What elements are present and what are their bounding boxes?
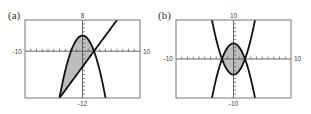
- x-min-label-a: -10: [13, 48, 23, 55]
- y-max-label-b: 10: [230, 12, 238, 19]
- panel-label-b: (b): [158, 9, 171, 22]
- x-max-label-a: 10: [143, 48, 151, 55]
- panel-label-a: (a): [8, 9, 21, 22]
- y-max-label-a: 8: [81, 12, 85, 19]
- graph-panel-b: (b) 10 -10 -10 10: [158, 0, 302, 114]
- shaded-region: [60, 36, 95, 98]
- y-min-label-a: -12: [78, 100, 88, 107]
- y-min-label-b: -10: [229, 100, 239, 107]
- figure-stage: (a) 8 -12 -10 10 (b) 10 -10 -10 10: [0, 0, 311, 114]
- graph-panel-a: (a) 8 -12 -10 10: [8, 0, 151, 114]
- x-max-label-b: 10: [294, 55, 302, 62]
- x-min-label-b: -10: [164, 55, 174, 62]
